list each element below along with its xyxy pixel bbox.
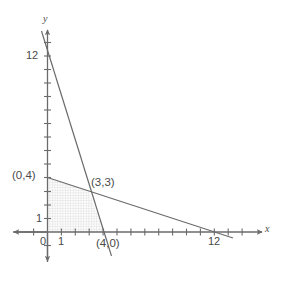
y-axis-name: y xyxy=(43,14,47,24)
x-tick-label-1: 1 xyxy=(58,236,64,247)
origin-label: 0 xyxy=(40,236,46,247)
x-axis-name: x xyxy=(265,224,269,234)
graph-figure: 12 1 0 1 12 x y (0,4) (3,3) (4,0) xyxy=(0,0,287,284)
y-tick-label-12: 12 xyxy=(26,50,38,61)
y-tick-label-1: 1 xyxy=(36,213,42,224)
vertex-label-0-4: (0,4) xyxy=(12,170,36,182)
x-tick-label-12: 12 xyxy=(208,236,220,247)
vertex-label-4-0: (4,0) xyxy=(96,238,120,250)
vertex-label-3-3: (3,3) xyxy=(91,177,115,189)
